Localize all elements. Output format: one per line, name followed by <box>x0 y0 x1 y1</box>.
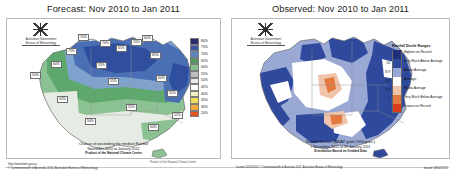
decile-swatch <box>392 68 402 77</box>
observed-caption: Rainfall Deciles (AWAP grids 1900-pres.)… <box>227 140 454 154</box>
legend-row: 35% <box>190 97 222 104</box>
legend-swatch <box>190 104 199 111</box>
legend-swatch <box>190 78 199 85</box>
legend-row: 50% <box>190 78 222 85</box>
forecast-map-frame: Australian Government Bureau of Meteorol… <box>6 18 221 159</box>
legend-label: 30% <box>201 105 208 109</box>
legend-row: 65% <box>190 58 222 65</box>
contour-label: 50% <box>57 96 68 103</box>
decile-legend: Rainfall Decile Ranges Highest on Record… <box>383 44 449 113</box>
legend-swatch <box>190 71 199 78</box>
observed-crest: Australian Government Bureau of Meteorol… <box>244 23 288 45</box>
decile-range: 8-9 <box>383 70 390 74</box>
legend-swatch <box>190 64 199 71</box>
legend-label: 70% <box>201 52 208 56</box>
crest-rule <box>22 45 60 46</box>
decile-legend-row: 4-7 Average <box>383 77 449 86</box>
decile-range: 4-7 <box>383 79 390 83</box>
decile-legend-row: Highest on Record <box>383 50 449 59</box>
forecast-caption-line3: Product of the National Climate Centre <box>0 151 227 156</box>
decile-label: Lowest on Record <box>404 105 431 109</box>
contour-label: 75% <box>66 48 77 55</box>
decile-range: 1 <box>383 97 390 101</box>
decile-label: Below Average <box>404 87 426 91</box>
decile-label: Highest on Record <box>404 51 431 55</box>
rainfall-comparison-sheet: Forecast: Nov 2010 to Jan 2011 <box>0 0 454 181</box>
legend-swatch <box>190 111 199 118</box>
decile-range: 2-3 <box>383 88 390 92</box>
legend-label: 40% <box>201 92 208 96</box>
decile-legend-title: Rainfall Decile Ranges <box>392 44 449 48</box>
legend-label: 80% <box>201 39 208 43</box>
decile-swatch <box>392 86 402 95</box>
legend-label: 45% <box>201 85 208 89</box>
forecast-crest: Australian Government Bureau of Meteorol… <box>19 23 63 45</box>
probability-legend: 80% 75% 70% 65% 60% 55% 50% 45% <box>190 38 222 117</box>
legend-swatch <box>190 45 199 52</box>
contour-label: 50% <box>85 118 96 125</box>
forecast-title: Forecast: Nov 2010 to Jan 2011 <box>0 4 227 14</box>
legend-swatch <box>190 38 199 45</box>
contour-label: 55% <box>172 112 183 119</box>
decile-label: Very Much Above Average <box>404 60 443 64</box>
crest-bureau-label: Bureau of Meteorology <box>19 41 63 45</box>
decile-label: Above Average <box>404 69 426 73</box>
legend-row: 55% <box>190 71 222 78</box>
decile-label: Average <box>404 78 416 82</box>
contour-label: 55% <box>108 78 119 85</box>
decile-legend-row: 2-3 Below Average <box>383 86 449 95</box>
footer-copyright: © Commonwealth of Australia 2010, Austra… <box>8 166 98 170</box>
contour-label: 55% <box>126 104 137 111</box>
decile-legend-row: 8-9 Above Average <box>383 68 449 77</box>
commonwealth-coat-of-arms-icon <box>258 23 273 36</box>
footer-right-source: Issued: 02/02/2011 © Commonwealth of Aus… <box>236 166 343 169</box>
decile-legend-row: Lowest on Record <box>383 104 449 113</box>
decile-swatch <box>392 95 402 104</box>
contour-label: 60% <box>148 124 159 131</box>
contour-label: 65% <box>150 52 161 59</box>
contour-label: 70% <box>78 34 89 41</box>
decile-range: 10 <box>383 61 390 65</box>
footer-issued: Issued: 08/02/2011 <box>424 166 448 170</box>
legend-row: 70% <box>190 51 222 58</box>
forecast-panel: Forecast: Nov 2010 to Jan 2011 <box>0 0 227 181</box>
observed-title: Observed: Nov 2010 to Jan 2011 <box>227 4 454 14</box>
legend-row: 75% <box>190 45 222 52</box>
contour-label: 55% <box>96 62 107 69</box>
legend-label: 55% <box>201 72 208 76</box>
legend-row: 40% <box>190 91 222 98</box>
decile-swatch <box>392 59 402 68</box>
contour-label: 60% <box>142 35 153 42</box>
legend-swatch <box>190 84 199 91</box>
decile-label: Very Much Below Average <box>404 96 442 100</box>
legend-row: 80% <box>190 38 222 45</box>
legend-label: 65% <box>201 59 208 63</box>
observed-caption-line3: Distribution Based on Gridded Data <box>227 149 454 154</box>
decile-swatch <box>392 104 402 113</box>
legend-row: 20% <box>190 111 222 118</box>
legend-swatch <box>190 51 199 58</box>
legend-swatch <box>190 97 199 104</box>
decile-legend-row: 10 Very Much Above Average <box>383 59 449 68</box>
footer-middle-note: Product of the National Climate Centre <box>150 161 196 164</box>
legend-label: 75% <box>201 45 208 49</box>
decile-legend-row: 1 Very Much Below Average <box>383 95 449 104</box>
contour-label: 70% <box>100 40 111 47</box>
decile-swatch <box>392 50 402 59</box>
contour-label: 70% <box>131 39 142 46</box>
contour-label: 50% <box>30 72 41 79</box>
legend-row: 45% <box>190 84 222 91</box>
legend-label: 20% <box>201 111 208 115</box>
legend-row: 30% <box>190 104 222 111</box>
contour-label: 55% <box>167 90 178 97</box>
contour-label: 60% <box>156 75 167 82</box>
commonwealth-coat-of-arms-icon <box>33 23 48 36</box>
legend-label: 35% <box>201 98 208 102</box>
legend-label: 60% <box>201 65 208 69</box>
forecast-caption: Chance of exceeding the median Rainfall … <box>0 142 227 156</box>
decile-swatch <box>392 77 402 86</box>
crest-bureau-label: Bureau of Meteorology <box>244 41 288 45</box>
contour-label: 65% <box>116 45 127 52</box>
legend-label: 50% <box>201 78 208 82</box>
legend-row: 60% <box>190 64 222 71</box>
